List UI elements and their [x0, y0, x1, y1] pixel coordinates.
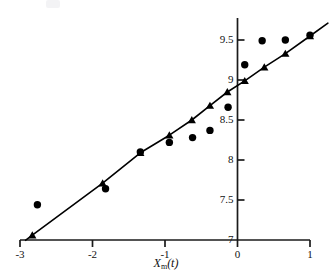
data-point-triangle	[223, 88, 231, 95]
data-point-circle	[102, 185, 109, 192]
y-tick-label: 8	[190, 154, 234, 165]
data-point-circle	[241, 61, 248, 68]
y-tick-label: 7	[190, 234, 234, 245]
data-point-circle	[166, 139, 173, 146]
plot-canvas	[0, 0, 332, 280]
data-point-triangle	[260, 63, 268, 70]
data-point-circle	[258, 37, 265, 44]
x-axis-title: Xm(t)	[0, 256, 332, 271]
data-point-circle	[189, 134, 196, 141]
data-point-circle	[34, 201, 41, 208]
data-point-circle	[206, 127, 213, 134]
y-tick-label: 9	[190, 74, 234, 85]
data-point-circle	[282, 36, 289, 43]
data-point-circle	[224, 104, 231, 111]
data-point-circle	[137, 148, 144, 155]
scatter-plot-figure: -3-2-10177.588.599.5 Xm(t)	[0, 0, 332, 280]
y-tick-label: 9.5	[190, 34, 234, 45]
data-point-circle	[306, 32, 313, 39]
x-axis-title-base: X	[154, 256, 161, 270]
y-tick-label: 7.5	[190, 194, 234, 205]
x-axis-title-suffix: (t)	[167, 256, 178, 270]
y-tick-label: 8.5	[190, 114, 234, 125]
